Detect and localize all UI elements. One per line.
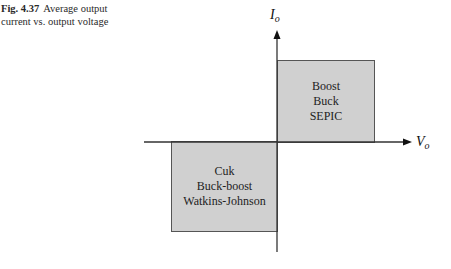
x-axis-label-sub: o [425,140,430,151]
axes [0,0,451,269]
y-axis-label: Io [270,7,280,24]
x-axis-arrow-icon [403,139,412,146]
x-axis-label-main: V [416,134,425,149]
y-axis-arrow-icon [274,30,281,39]
x-axis-label: Vo [416,134,430,151]
y-axis-label-sub: o [275,13,280,24]
